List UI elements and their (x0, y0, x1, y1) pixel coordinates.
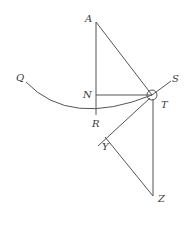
label-T: T (161, 99, 169, 110)
label-Y: Y (102, 141, 110, 152)
label-N: N (82, 89, 93, 100)
line-P-Y (98, 98, 150, 146)
label-R: R (91, 118, 100, 129)
label-A: A (84, 13, 92, 24)
label-S: S (172, 73, 179, 84)
line-Y-Z (105, 137, 153, 196)
line-P-S (152, 81, 171, 95)
diagram-canvas: A N Q R S T Y Z (0, 0, 189, 229)
label-Q: Q (16, 72, 24, 83)
line-A-P (96, 22, 152, 95)
label-Z: Z (157, 193, 166, 204)
